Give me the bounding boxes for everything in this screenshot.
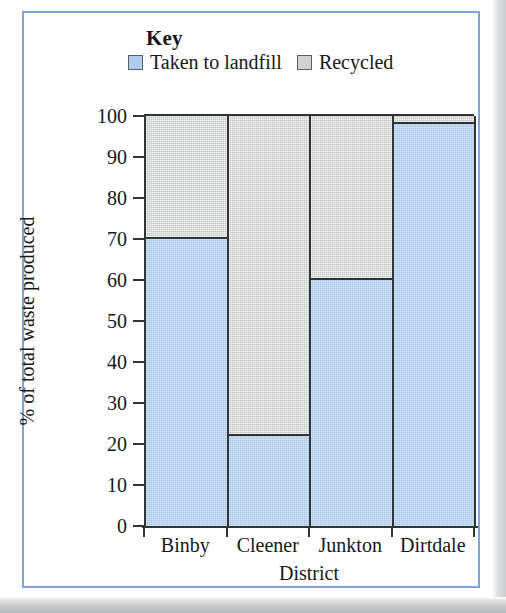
x-axis-labels: BinbyCleenerJunktonDirtdale (144, 534, 474, 557)
legend-title: Key (146, 27, 458, 49)
y-tick-label: 60 (107, 270, 127, 290)
bar-binby[interactable] (144, 116, 229, 526)
scan-edge-bottom (0, 597, 506, 613)
y-tick-40: 40 (107, 352, 144, 372)
bar-junkton[interactable] (309, 116, 394, 526)
y-tick-label: 40 (107, 352, 127, 372)
y-tick-90: 90 (107, 147, 144, 167)
y-tick-label: 30 (107, 393, 127, 413)
plot-area: 1009080706050403020100 BinbyCleenerJunkt… (144, 116, 474, 526)
legend-label-taken-to-landfill: Taken to landfill (150, 52, 282, 72)
y-tick-label: 90 (107, 147, 127, 167)
y-tick-mark (133, 156, 144, 158)
y-tick-10: 10 (107, 475, 144, 495)
chart-legend: Key Taken to landfill Recycled (128, 27, 458, 72)
scan-edge-right (492, 0, 506, 600)
y-tick-mark (133, 443, 144, 445)
y-tick-100: 100 (97, 106, 144, 126)
y-tick-label: 100 (97, 106, 127, 126)
y-tick-mark (133, 197, 144, 199)
y-tick-mark (133, 279, 144, 281)
y-tick-label: 10 (107, 475, 127, 495)
segment-recycled-dirtdale[interactable] (394, 116, 475, 124)
y-tick-label: 0 (117, 516, 127, 536)
figure-frame: Key Taken to landfill Recycled % of tota… (22, 11, 480, 588)
y-tick-mark (133, 402, 144, 404)
y-tick-mark (133, 238, 144, 240)
y-tick-mark (133, 320, 144, 322)
x-label-cleener: Cleener (227, 534, 310, 557)
x-label-dirtdale: Dirtdale (392, 534, 475, 557)
bars-container (144, 116, 474, 526)
y-tick-70: 70 (107, 229, 144, 249)
y-tick-mark (133, 484, 144, 486)
y-tick-50: 50 (107, 311, 144, 331)
legend-swatch-blue-icon (128, 55, 143, 70)
segment-recycled-junkton[interactable] (311, 116, 392, 280)
y-tick-label: 80 (107, 188, 127, 208)
legend-label-recycled: Recycled (319, 52, 393, 72)
segment-taken-to-landfill-dirtdale[interactable] (394, 124, 475, 526)
legend-item-recycled: Recycled (297, 52, 393, 72)
y-tick-60: 60 (107, 270, 144, 290)
y-tick-0: 0 (117, 516, 144, 536)
y-tick-30: 30 (107, 393, 144, 413)
y-tick-mark (133, 115, 144, 117)
segment-taken-to-landfill-binby[interactable] (146, 239, 227, 526)
y-tick-label: 20 (107, 434, 127, 454)
legend-item-taken-to-landfill: Taken to landfill (128, 52, 282, 72)
bar-cleener[interactable] (227, 116, 312, 526)
legend-items: Taken to landfill Recycled (128, 52, 458, 72)
segment-recycled-cleener[interactable] (229, 116, 310, 436)
legend-swatch-grey-icon (297, 55, 312, 70)
x-axis-title: District (144, 562, 474, 585)
segment-recycled-binby[interactable] (146, 116, 227, 239)
y-tick-20: 20 (107, 434, 144, 454)
x-label-binby: Binby (144, 534, 227, 557)
x-label-junkton: Junkton (309, 534, 392, 557)
bar-dirtdale[interactable] (392, 116, 477, 526)
y-tick-label: 70 (107, 229, 127, 249)
y-tick-label: 50 (107, 311, 127, 331)
y-axis-title: % of total waste produced (14, 116, 40, 526)
segment-taken-to-landfill-cleener[interactable] (229, 436, 310, 526)
y-tick-mark (133, 361, 144, 363)
segment-taken-to-landfill-junkton[interactable] (311, 280, 392, 526)
x-axis-line (142, 526, 478, 528)
y-tick-80: 80 (107, 188, 144, 208)
